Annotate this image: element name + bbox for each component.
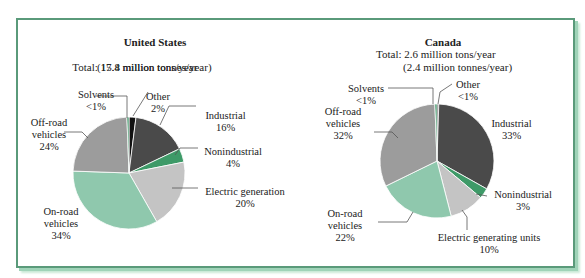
us-total-tonnes: (15.8 million tonnes/year)	[97, 61, 212, 74]
us-label-electric: Electric generation 20%	[200, 186, 290, 210]
us-label-solvents: Solvents <1%	[66, 89, 126, 113]
us-label-nonindustrial: Nonindustrial 4%	[200, 146, 266, 170]
pie-united-states	[73, 117, 185, 229]
ca-label-onroad: On-road vehicles 22%	[320, 208, 370, 244]
ca-label-solvents: Solvents <1%	[341, 83, 391, 107]
us-label-onroad: On-road vehicles 34%	[36, 206, 86, 242]
ca-total-tons: Total: 2.6 million tons/year	[376, 48, 496, 61]
ca-label-electric: Electric generating units 10%	[434, 232, 544, 256]
ca-label-industrial: Industrial 33%	[484, 118, 539, 142]
us-label-offroad: Off-road vehicles 24%	[24, 117, 74, 153]
ca-title: Canada	[393, 36, 493, 48]
us-label-industrial: Industrial 16%	[198, 110, 253, 134]
us-title: United States	[90, 36, 220, 48]
pie-slice-off-road-vehicles	[73, 117, 129, 173]
us-label-other: Other 2%	[143, 91, 173, 115]
pie-canada	[380, 104, 494, 218]
ca-label-other: Other <1%	[453, 79, 483, 103]
ca-label-nonindustrial: Nonindustrial 3%	[490, 189, 556, 213]
ca-total-tonnes: (2.4 million tonnes/year)	[403, 61, 512, 74]
ca-label-offroad: Off-road vehicles 32%	[318, 106, 368, 142]
